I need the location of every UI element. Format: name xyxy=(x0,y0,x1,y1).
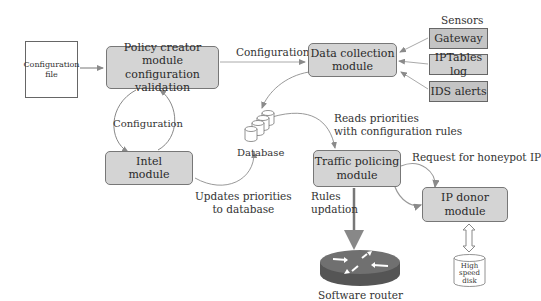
data-collection-node: Data collection module xyxy=(308,43,397,77)
ip-donor-line2: module xyxy=(444,205,485,218)
edge-ipdonor-traffic xyxy=(395,187,421,206)
intel-line1: Intel xyxy=(136,155,162,168)
policy-creator-node: Policy creator module configuration vali… xyxy=(106,46,219,89)
edge-traffic-ipdonor xyxy=(401,164,435,187)
intel-line2: module xyxy=(128,168,169,181)
label-reads-priorities: Reads priorities with configuration rule… xyxy=(334,112,462,137)
updates-line1: Updates priorities xyxy=(195,190,292,203)
edge-database-traffic xyxy=(272,113,335,148)
rules-line2: updation xyxy=(311,203,358,216)
sensor-iptables-log: IPTables log xyxy=(429,54,488,75)
label-updates-priorities: Updates priorities to database xyxy=(195,190,292,215)
reads-line1: Reads priorities xyxy=(334,112,462,125)
traffic-policing-line2: module xyxy=(336,169,377,182)
edge-ids-datacollection xyxy=(401,72,428,89)
router-label: Software router xyxy=(318,289,403,301)
edge-gateway-datacollection xyxy=(400,38,428,52)
traffic-policing-line1: Traffic policing xyxy=(315,155,400,168)
traffic-policing-node: Traffic policing module xyxy=(313,150,401,187)
policy-creator-line1: Policy creator module xyxy=(107,41,218,67)
ip-donor-line1: IP donor xyxy=(441,191,489,204)
ip-donor-node: IP donor module xyxy=(422,187,508,222)
updates-line2: to database xyxy=(195,203,292,216)
sensor-ids-alerts: IDS alerts xyxy=(429,81,488,102)
database-icon xyxy=(245,111,274,142)
policy-creator-line2: configuration validation xyxy=(107,68,218,94)
edge-ipdonor-disk xyxy=(463,224,475,252)
data-collection-line1: Data collection xyxy=(311,47,395,60)
config-file-node: Configuration file xyxy=(25,41,78,98)
data-collection-line2: module xyxy=(332,60,373,73)
label-configuration-top: Configuration xyxy=(236,46,310,59)
reads-line2: with configuration rules xyxy=(334,125,462,138)
disk-label: High speed disk xyxy=(454,263,485,285)
sensor-gateway: Gateway xyxy=(429,28,488,49)
database-label: Database xyxy=(237,147,284,159)
disk-line3: disk xyxy=(454,278,485,285)
edge-iptables-datacollection xyxy=(399,61,428,64)
edge-datacollection-database xyxy=(262,72,309,108)
intel-module-node: Intel module xyxy=(105,151,193,185)
label-configuration-loop: Configuration xyxy=(113,118,183,130)
config-file-line1: Configuration xyxy=(23,60,79,70)
router-icon xyxy=(320,250,400,286)
label-honeypot-request: Request for honeypot IP xyxy=(412,151,541,164)
config-file-line2: file xyxy=(45,70,58,80)
rules-line1: Rules xyxy=(311,190,358,203)
sensors-title: Sensors xyxy=(441,14,483,27)
label-rules-updation: Rules updation xyxy=(311,190,358,215)
